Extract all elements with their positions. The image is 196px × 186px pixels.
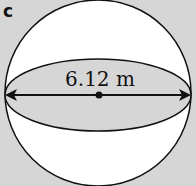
sphere-diagram: 6.12 m bbox=[0, 0, 196, 186]
center-point bbox=[96, 92, 103, 99]
diameter-measurement: 6.12 m bbox=[65, 67, 135, 91]
